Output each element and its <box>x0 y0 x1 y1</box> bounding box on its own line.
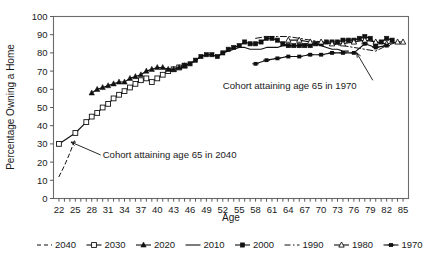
legend-label: 1970 <box>402 239 423 250</box>
data-point-marker <box>388 243 395 247</box>
data-point-marker <box>149 80 154 85</box>
data-point-marker <box>237 44 241 48</box>
x-tick-label: 76 <box>349 204 360 215</box>
data-point-marker <box>128 85 133 90</box>
x-tick-label: 58 <box>250 204 261 215</box>
data-point-marker <box>193 58 197 62</box>
data-point-marker <box>133 81 138 86</box>
data-point-marker <box>210 53 214 57</box>
data-point-marker <box>117 92 122 97</box>
data-point-marker <box>368 36 372 40</box>
data-point-marker <box>281 42 285 46</box>
y-tick-label: 60 <box>37 84 48 95</box>
x-tick-label: 79 <box>365 204 376 215</box>
x-tick-label: 85 <box>398 204 409 215</box>
x-tick-label: 40 <box>152 204 163 215</box>
legend-item-2020[interactable]: 2020 <box>136 239 175 250</box>
data-point-marker <box>296 55 303 59</box>
legend-item-2000[interactable]: 2000 <box>235 239 274 250</box>
y-axis-title: Percentage Owning a Home <box>5 44 16 170</box>
data-point-marker <box>248 42 252 46</box>
data-point-marker <box>259 40 263 44</box>
data-point-marker <box>286 44 290 48</box>
data-point-marker <box>307 53 314 57</box>
legend-item-1980[interactable]: 1980 <box>334 239 373 250</box>
legend-item-2030[interactable]: 2030 <box>87 239 126 250</box>
data-point-marker <box>182 64 186 68</box>
x-tick-label: 22 <box>54 204 65 215</box>
data-point-marker <box>89 90 94 95</box>
x-tick-label: 82 <box>381 204 392 215</box>
x-axis-title: Age <box>222 212 240 223</box>
data-point-marker <box>111 96 116 101</box>
data-point-marker <box>303 44 307 48</box>
data-point-marker <box>204 53 208 57</box>
y-axis-tick-labels: 0102030405060708090100 <box>32 11 48 204</box>
series-2030 <box>57 63 187 146</box>
data-point-marker <box>240 243 244 247</box>
chart-legend: 20402030202020102000199019801970 <box>37 239 423 250</box>
annotation-label: Cohort attaining age 65 in 1970 <box>223 80 357 91</box>
data-point-marker <box>275 38 279 42</box>
data-point-marker <box>253 42 257 46</box>
legend-label: 2000 <box>253 239 274 250</box>
legend-item-2040[interactable]: 2040 <box>37 239 76 250</box>
x-tick-label: 43 <box>168 204 179 215</box>
x-tick-label: 46 <box>185 204 196 215</box>
data-point-marker <box>215 54 219 58</box>
data-point-marker <box>221 51 225 55</box>
x-tick-label: 67 <box>299 204 310 215</box>
data-point-marker <box>390 38 394 42</box>
legend-label: 2040 <box>55 239 76 250</box>
data-point-marker <box>155 76 160 81</box>
data-point-marker <box>92 243 97 248</box>
y-tick-label: 50 <box>37 102 48 113</box>
data-point-marker <box>89 114 94 119</box>
chart-canvas: 0102030405060708090100 22252831343740434… <box>0 0 434 262</box>
y-tick-label: 40 <box>37 120 48 131</box>
x-tick-label: 34 <box>119 204 130 215</box>
y-tick-label: 80 <box>37 47 48 58</box>
data-point-marker <box>144 76 149 81</box>
annotation-leader-line <box>71 142 101 155</box>
x-tick-label: 31 <box>103 204 114 215</box>
x-tick-label: 25 <box>70 204 81 215</box>
data-point-marker <box>199 54 203 58</box>
data-point-marker <box>297 44 301 48</box>
x-tick-label: 64 <box>283 204 294 215</box>
annotation-group: Cohort attaining age 65 in 2040Cohort at… <box>71 53 373 161</box>
x-tick-label: 28 <box>86 204 97 215</box>
legend-item-2010[interactable]: 2010 <box>186 239 225 250</box>
data-point-marker <box>57 142 62 147</box>
y-tick-label: 90 <box>37 29 48 40</box>
annotation-label: Cohort attaining age 65 in 2040 <box>103 149 237 160</box>
data-point-marker <box>138 72 143 77</box>
data-point-marker <box>274 56 281 60</box>
data-point-marker <box>100 105 105 110</box>
legend-item-1970[interactable]: 1970 <box>384 239 423 250</box>
data-point-marker <box>73 131 78 136</box>
data-point-marker <box>138 78 143 83</box>
legend-item-1990[interactable]: 1990 <box>285 239 324 250</box>
annotation-leader-line <box>357 53 373 80</box>
data-point-marker <box>318 53 325 57</box>
data-point-marker <box>122 89 127 94</box>
y-tick-label: 100 <box>32 11 48 22</box>
data-point-marker <box>385 36 389 40</box>
y-tick-label: 70 <box>37 66 48 77</box>
legend-label: 2030 <box>105 239 126 250</box>
legend-label: 1980 <box>352 239 373 250</box>
y-tick-label: 20 <box>37 157 48 168</box>
data-point-marker <box>226 47 230 51</box>
x-tick-label: 49 <box>201 204 212 215</box>
x-tick-label: 70 <box>316 204 327 215</box>
y-tick-label: 30 <box>37 138 48 149</box>
chart-figure: 0102030405060708090100 22252831343740434… <box>0 0 434 262</box>
data-point-marker <box>95 111 100 116</box>
x-tick-label: 37 <box>136 204 147 215</box>
x-tick-label: 61 <box>267 204 278 215</box>
y-tick-label: 0 <box>42 193 47 204</box>
data-point-marker <box>160 72 165 77</box>
legend-label: 1990 <box>303 239 324 250</box>
data-point-marker <box>292 44 296 48</box>
